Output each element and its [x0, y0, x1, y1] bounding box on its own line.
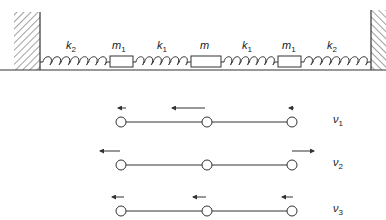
label-m1-right: m1 [282, 40, 296, 54]
mode-label-nu3: ν3 [333, 203, 343, 217]
label-k1-left: k1 [157, 40, 167, 54]
mode-label-nu2: ν2 [333, 157, 343, 171]
atom-2 [202, 160, 212, 170]
label-k1-right: k1 [242, 40, 252, 54]
atom-2 [202, 206, 212, 216]
atom-3 [287, 117, 297, 127]
mode-row-1 [116, 108, 297, 127]
mass-m1-right [278, 56, 301, 67]
spring-k1-right [221, 57, 278, 65]
mode-label-nu1: ν1 [333, 114, 343, 128]
atom-2 [202, 117, 212, 127]
atom-1 [116, 160, 126, 170]
mass-m1-left [110, 56, 133, 67]
atom-3 [287, 160, 297, 170]
mode-row-3 [112, 197, 297, 216]
left-wall [14, 12, 40, 70]
atom-1 [116, 206, 126, 216]
right-wall [371, 10, 386, 70]
label-m1-left: m1 [112, 40, 126, 54]
normal-modes [100, 108, 314, 216]
triatomic-molecule-spring-diagram [0, 0, 386, 220]
spring-mass-chain [40, 56, 371, 67]
label-m-center: m [200, 40, 209, 51]
spring-k2-left [40, 57, 110, 65]
mass-m-center [191, 56, 221, 67]
label-k2-right: k2 [327, 40, 337, 54]
mode-row-2 [100, 151, 314, 170]
label-k2-left: k2 [66, 40, 76, 54]
atom-3 [287, 206, 297, 216]
spring-k2-right [301, 57, 371, 65]
atom-1 [116, 117, 126, 127]
spring-k1-left [133, 57, 191, 65]
